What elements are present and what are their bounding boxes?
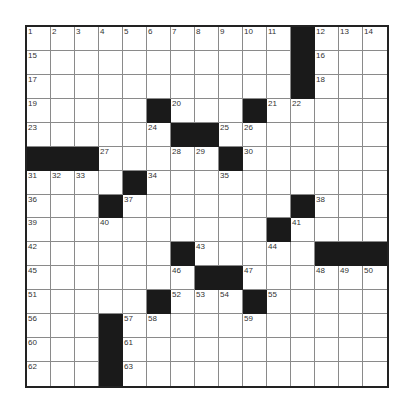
grid-cell[interactable] <box>339 195 363 219</box>
grid-cell[interactable] <box>171 314 195 338</box>
grid-cell[interactable] <box>339 218 363 242</box>
grid-cell[interactable]: 61 <box>123 338 147 362</box>
grid-cell[interactable] <box>267 171 291 195</box>
grid-cell[interactable]: 56 <box>27 314 51 338</box>
grid-cell[interactable] <box>267 75 291 99</box>
grid-cell[interactable]: 49 <box>339 266 363 290</box>
grid-cell[interactable]: 44 <box>267 242 291 266</box>
grid-cell[interactable] <box>75 362 99 386</box>
grid-cell[interactable] <box>171 218 195 242</box>
grid-cell[interactable] <box>291 290 315 314</box>
grid-cell[interactable] <box>315 338 339 362</box>
grid-cell[interactable] <box>195 171 219 195</box>
grid-cell[interactable]: 25 <box>219 123 243 147</box>
grid-cell[interactable]: 26 <box>243 123 267 147</box>
grid-cell[interactable] <box>147 195 171 219</box>
grid-cell[interactable] <box>171 51 195 75</box>
grid-cell[interactable] <box>267 338 291 362</box>
grid-cell[interactable] <box>75 266 99 290</box>
grid-cell[interactable] <box>99 242 123 266</box>
grid-cell[interactable]: 52 <box>171 290 195 314</box>
grid-cell[interactable] <box>123 242 147 266</box>
grid-cell[interactable]: 27 <box>99 147 123 171</box>
grid-cell[interactable] <box>171 75 195 99</box>
grid-cell[interactable]: 17 <box>27 75 51 99</box>
grid-cell[interactable] <box>339 99 363 123</box>
grid-cell[interactable] <box>267 51 291 75</box>
grid-cell[interactable] <box>123 147 147 171</box>
grid-cell[interactable] <box>291 314 315 338</box>
grid-cell[interactable] <box>75 290 99 314</box>
grid-cell[interactable] <box>99 171 123 195</box>
grid-cell[interactable] <box>363 314 387 338</box>
grid-cell[interactable]: 34 <box>147 171 171 195</box>
grid-cell[interactable]: 20 <box>171 99 195 123</box>
grid-cell[interactable]: 50 <box>363 266 387 290</box>
grid-cell[interactable] <box>147 51 171 75</box>
grid-cell[interactable] <box>291 266 315 290</box>
grid-cell[interactable]: 12 <box>315 27 339 51</box>
grid-cell[interactable]: 19 <box>27 99 51 123</box>
grid-cell[interactable] <box>219 75 243 99</box>
grid-cell[interactable] <box>99 290 123 314</box>
grid-cell[interactable]: 13 <box>339 27 363 51</box>
grid-cell[interactable]: 6 <box>147 27 171 51</box>
grid-cell[interactable]: 33 <box>75 171 99 195</box>
grid-cell[interactable] <box>315 290 339 314</box>
grid-cell[interactable]: 28 <box>171 147 195 171</box>
grid-cell[interactable] <box>147 362 171 386</box>
grid-cell[interactable] <box>219 362 243 386</box>
grid-cell[interactable] <box>75 218 99 242</box>
grid-cell[interactable] <box>51 99 75 123</box>
grid-cell[interactable] <box>243 195 267 219</box>
grid-cell[interactable] <box>195 314 219 338</box>
grid-cell[interactable] <box>339 75 363 99</box>
grid-cell[interactable]: 10 <box>243 27 267 51</box>
grid-cell[interactable]: 8 <box>195 27 219 51</box>
grid-cell[interactable]: 3 <box>75 27 99 51</box>
grid-cell[interactable] <box>219 218 243 242</box>
grid-cell[interactable] <box>171 338 195 362</box>
grid-cell[interactable]: 5 <box>123 27 147 51</box>
grid-cell[interactable] <box>75 51 99 75</box>
grid-cell[interactable] <box>147 242 171 266</box>
grid-cell[interactable] <box>195 362 219 386</box>
grid-cell[interactable] <box>363 171 387 195</box>
grid-cell[interactable] <box>291 171 315 195</box>
grid-cell[interactable] <box>195 99 219 123</box>
grid-cell[interactable] <box>363 218 387 242</box>
grid-cell[interactable] <box>123 218 147 242</box>
grid-cell[interactable] <box>315 362 339 386</box>
grid-cell[interactable] <box>171 362 195 386</box>
grid-cell[interactable] <box>267 147 291 171</box>
grid-cell[interactable] <box>363 362 387 386</box>
grid-cell[interactable] <box>51 362 75 386</box>
grid-cell[interactable] <box>123 266 147 290</box>
grid-cell[interactable] <box>51 242 75 266</box>
grid-cell[interactable]: 9 <box>219 27 243 51</box>
grid-cell[interactable] <box>219 338 243 362</box>
grid-cell[interactable] <box>147 266 171 290</box>
grid-cell[interactable] <box>51 75 75 99</box>
grid-cell[interactable]: 51 <box>27 290 51 314</box>
grid-cell[interactable] <box>51 266 75 290</box>
grid-cell[interactable] <box>291 362 315 386</box>
grid-cell[interactable]: 54 <box>219 290 243 314</box>
grid-cell[interactable] <box>315 218 339 242</box>
grid-cell[interactable]: 40 <box>99 218 123 242</box>
grid-cell[interactable] <box>243 338 267 362</box>
grid-cell[interactable] <box>363 338 387 362</box>
grid-cell[interactable]: 39 <box>27 218 51 242</box>
grid-cell[interactable] <box>123 123 147 147</box>
grid-cell[interactable] <box>267 314 291 338</box>
grid-cell[interactable] <box>75 99 99 123</box>
grid-cell[interactable] <box>51 123 75 147</box>
grid-cell[interactable] <box>363 99 387 123</box>
grid-cell[interactable] <box>75 123 99 147</box>
grid-cell[interactable] <box>123 99 147 123</box>
grid-cell[interactable] <box>99 123 123 147</box>
grid-cell[interactable] <box>315 99 339 123</box>
grid-cell[interactable]: 14 <box>363 27 387 51</box>
grid-cell[interactable] <box>51 195 75 219</box>
grid-cell[interactable] <box>267 195 291 219</box>
